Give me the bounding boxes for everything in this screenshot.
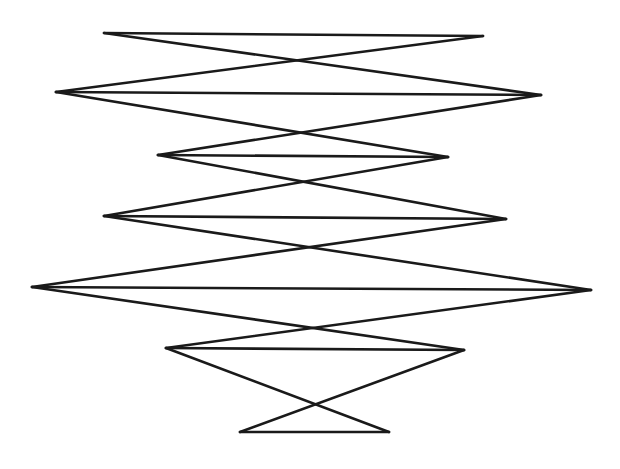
diagonal-segment <box>104 33 541 95</box>
horizontal-segment <box>158 155 448 157</box>
diagram-lines <box>32 33 591 432</box>
horizontal-segment <box>32 287 591 290</box>
horizontal-segment <box>104 216 506 219</box>
diagonal-segment <box>158 155 506 219</box>
diagonal-segment <box>56 92 448 157</box>
diagonal-segment <box>158 95 541 155</box>
diagonal-segment <box>104 157 448 216</box>
diagonal-segment <box>104 216 591 290</box>
diagonal-segment <box>240 350 464 432</box>
horizontal-segment <box>104 33 483 36</box>
diagonal-segment <box>166 290 591 348</box>
zigzag-diagram <box>0 0 620 469</box>
diagonal-segment <box>32 219 506 287</box>
diagonal-segment <box>56 36 483 92</box>
horizontal-segment <box>166 348 464 350</box>
diagonal-segment <box>32 287 464 350</box>
horizontal-segment <box>56 92 541 95</box>
